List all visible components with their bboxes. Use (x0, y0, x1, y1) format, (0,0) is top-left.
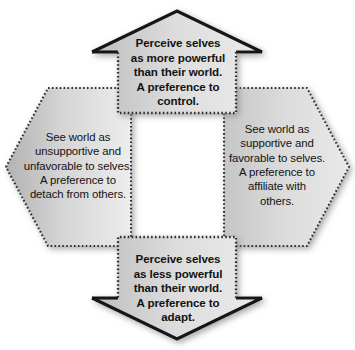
node-left-line-3: unfavorable to selves. (2, 159, 154, 173)
node-left-line-4: A preference to (2, 173, 154, 187)
node-right-line-6: others. (202, 194, 352, 208)
node-top-line-4: A preference to (104, 80, 252, 95)
node-bottom-label: Perceive selves as less powerful than th… (104, 252, 252, 325)
node-bottom-line-4: A preference to (104, 296, 252, 311)
node-top-label: Perceive selves as more powerful than th… (104, 36, 252, 109)
node-right-line-5: affiliate with (202, 179, 352, 193)
node-right-line-2: supportive and (202, 136, 352, 150)
node-left-label: See world as unsupportive and unfavorabl… (2, 130, 154, 202)
node-left-line-5: detach from others. (2, 187, 154, 201)
node-top-line-3: than their world. (104, 65, 252, 80)
node-top-line-2: as more powerful (104, 51, 252, 66)
node-right-line-4: A preference to (202, 165, 352, 179)
node-right-label: See world as supportive and favorable to… (202, 122, 352, 208)
node-top-line-1: Perceive selves (104, 36, 252, 51)
node-right-line-3: favorable to selves. (202, 151, 352, 165)
octagon-cycle-diagram: Perceive selves as more powerful than th… (0, 0, 355, 350)
node-bottom-line-1: Perceive selves (104, 252, 252, 267)
node-bottom-line-2: as less powerful (104, 267, 252, 282)
node-bottom-line-3: than their world. (104, 281, 252, 296)
node-left-line-2: unsupportive and (2, 144, 154, 158)
node-right-line-1: See world as (202, 122, 352, 136)
node-left-line-1: See world as (2, 130, 154, 144)
node-top-line-5: control. (104, 94, 252, 109)
node-bottom-line-5: adapt. (104, 310, 252, 325)
